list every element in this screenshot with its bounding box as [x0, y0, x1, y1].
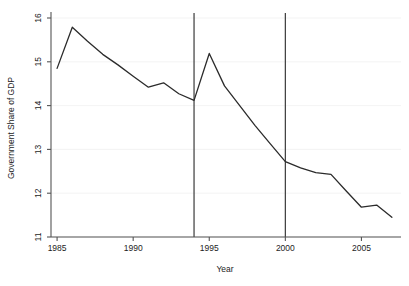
tick-marks-group — [47, 18, 361, 241]
government-share-of-gdp-line-chart: 19851990199520002005 111213141516 Year G… — [0, 0, 409, 286]
axes-group — [51, 12, 401, 237]
y-tick-label-15: 15 — [33, 57, 43, 67]
chart-container: 19851990199520002005 111213141516 Year G… — [0, 0, 409, 286]
data-series-group — [57, 27, 392, 217]
series-line-0 — [57, 27, 392, 217]
y-tick-label-14: 14 — [33, 101, 43, 111]
y-axis-title: Government Share of GDP — [6, 77, 16, 179]
y-tick-label-11: 11 — [33, 232, 43, 241]
y-tick-label-13: 13 — [33, 144, 43, 154]
reference-vertical-lines-group — [194, 13, 285, 237]
y-tick-label-12: 12 — [33, 188, 43, 198]
x-axis-title: Year — [216, 264, 233, 274]
x-tick-label-2000: 2000 — [276, 243, 295, 253]
x-tick-label-1995: 1995 — [200, 243, 219, 253]
x-tick-label-2005: 2005 — [352, 243, 371, 253]
y-axis-tick-labels-group: 111213141516 — [33, 13, 43, 241]
x-tick-label-1985: 1985 — [48, 243, 67, 253]
gridlines-group — [51, 18, 401, 237]
y-tick-label-16: 16 — [33, 13, 43, 23]
x-tick-label-1990: 1990 — [124, 243, 143, 253]
x-axis-tick-labels-group: 19851990199520002005 — [48, 243, 372, 253]
